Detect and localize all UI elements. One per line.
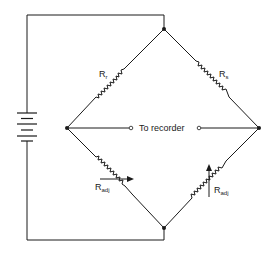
bridge-circuit [0,0,275,254]
node-right [257,126,261,130]
terminal-left [129,126,133,130]
resistor-r-adj-right [164,128,259,228]
arrow-icon [127,176,134,182]
node-bottom [162,226,166,230]
label-r-r: Rr [99,70,108,80]
battery-icon [17,113,37,141]
label-r-adj-right: Radj [214,186,229,196]
arrow-icon [206,164,212,171]
label-r-s: Rs [219,70,229,80]
top-wire [27,15,164,113]
terminal-right [197,126,201,130]
resistor-r-adj-left [67,128,164,228]
node-left [65,126,69,130]
label-r-adj-left: Radj [95,183,110,193]
resistor-r-s [164,29,259,128]
resistor-r-r [67,29,164,128]
node-top [162,27,166,31]
to-recorder-label: To recorder [139,124,185,133]
